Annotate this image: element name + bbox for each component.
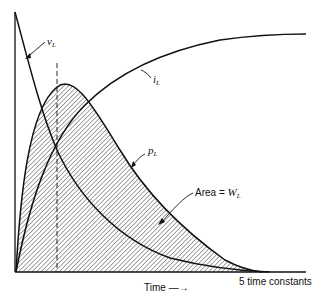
arrow-right-icon: —→ xyxy=(169,282,189,293)
time-label-text: Time xyxy=(144,282,166,293)
v-l-label: vL xyxy=(47,36,56,49)
p-l-label: pL xyxy=(148,145,157,158)
i-l-label: iL xyxy=(153,74,160,87)
i-l-label-sub: L xyxy=(156,79,160,87)
area-label-main: W xyxy=(228,186,237,198)
i-l-leader xyxy=(141,70,151,78)
area-label-sub: L xyxy=(237,192,241,200)
five-time-constants-label: 5 time constants xyxy=(239,277,312,287)
area-label: Area = WL xyxy=(195,187,241,200)
area-label-prefix: Area = xyxy=(195,187,228,198)
p-l-label-sub: L xyxy=(154,150,158,158)
time-axis-label: Time —→ xyxy=(144,283,189,293)
x-end-label-text: 5 time constants xyxy=(239,276,312,287)
v-l-label-sub: L xyxy=(52,41,56,49)
